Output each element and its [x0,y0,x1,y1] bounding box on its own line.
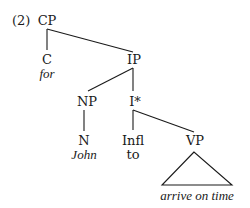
branch-ip-np [88,68,133,91]
word-john: John [71,147,96,162]
phrase-arrive-on-time: arrive on time [160,188,234,203]
node-c: C [42,52,52,67]
branch-cp-ip [47,29,133,52]
node-np: NP [77,94,97,109]
word-to: to [126,147,139,162]
node-ibar: I* [129,94,141,109]
vp-triangle [162,152,232,185]
node-cp: CP [38,13,57,28]
example-number: (2) [12,13,30,28]
node-infl: Infl [122,133,145,148]
node-ip: IP [127,52,141,67]
node-vp: VP [185,133,204,148]
word-for: for [39,66,55,81]
syntax-tree: (2) CP C for IP NP I* N John Infl to VP … [0,0,250,208]
branch-ibar-vp [133,110,194,132]
node-n: N [78,133,89,148]
